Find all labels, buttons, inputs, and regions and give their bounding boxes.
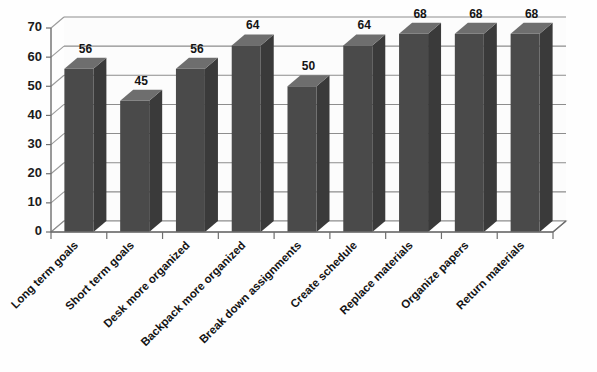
bar-front-face bbox=[232, 45, 261, 232]
bar bbox=[511, 23, 553, 232]
bar-value-label: 50 bbox=[302, 59, 316, 73]
bar-side-face bbox=[93, 58, 106, 232]
bar-value-label: 64 bbox=[358, 18, 372, 32]
depth-connector bbox=[51, 163, 64, 174]
bar-side-face bbox=[149, 90, 162, 232]
depth-connector bbox=[51, 46, 64, 57]
bar bbox=[176, 58, 218, 232]
bar-side-face bbox=[484, 23, 497, 232]
y-tick-label: 30 bbox=[28, 136, 42, 151]
bar-value-label: 45 bbox=[134, 74, 148, 88]
bar-side-face bbox=[428, 23, 441, 232]
bar-side-face bbox=[205, 58, 218, 232]
bar-chart: 564556645064686868010203040506070Long te… bbox=[0, 0, 597, 372]
bar-side-face bbox=[261, 34, 274, 232]
y-tick-label: 50 bbox=[28, 78, 42, 93]
y-tick-label: 20 bbox=[28, 165, 42, 180]
bar bbox=[64, 58, 106, 232]
y-tick-label: 0 bbox=[35, 223, 42, 238]
x-category-label: Backpack more organized bbox=[138, 239, 247, 348]
bar bbox=[343, 34, 385, 232]
bar-value-label: 68 bbox=[469, 7, 483, 21]
bar-front-face bbox=[343, 45, 372, 232]
bar-front-face bbox=[120, 101, 149, 232]
x-category-label: Break down assignments bbox=[197, 239, 304, 346]
depth-connector bbox=[51, 104, 64, 115]
bar-value-label: 56 bbox=[190, 42, 204, 56]
bar bbox=[455, 23, 497, 232]
bar-front-face bbox=[399, 34, 428, 232]
bar-value-label: 68 bbox=[525, 7, 539, 21]
y-tick-label: 70 bbox=[28, 19, 42, 34]
bar-front-face bbox=[176, 69, 205, 232]
bar-front-face bbox=[455, 34, 484, 232]
bar-side-face bbox=[372, 34, 385, 232]
chart-canvas: 564556645064686868010203040506070Long te… bbox=[0, 0, 597, 372]
bar bbox=[399, 23, 441, 232]
y-tick-label: 40 bbox=[28, 107, 42, 122]
y-tick-label: 10 bbox=[28, 194, 42, 209]
bar-front-face bbox=[287, 86, 316, 232]
bar bbox=[287, 75, 329, 232]
depth-connector bbox=[51, 134, 64, 145]
depth-connector bbox=[51, 17, 64, 28]
bar-front-face bbox=[511, 34, 540, 232]
bar-side-face bbox=[540, 23, 553, 232]
bar-side-face bbox=[317, 75, 330, 232]
y-tick-label: 60 bbox=[28, 49, 42, 64]
bar-value-label: 56 bbox=[79, 42, 93, 56]
bar bbox=[120, 90, 162, 232]
bar bbox=[232, 34, 274, 232]
bar-front-face bbox=[64, 69, 93, 232]
bar-value-label: 68 bbox=[413, 7, 427, 21]
bar-value-label: 64 bbox=[246, 18, 260, 32]
depth-connector bbox=[51, 192, 64, 203]
depth-connector bbox=[51, 75, 64, 86]
